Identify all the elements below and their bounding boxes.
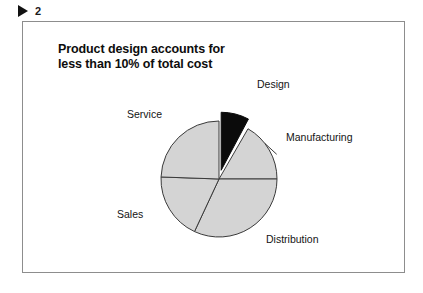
pie-label-design: Design — [257, 78, 290, 90]
slide-number: 2 — [35, 6, 41, 17]
slide-marker: 2 — [18, 4, 41, 18]
pie-label-sales: Sales — [117, 208, 143, 220]
pie-label-manufacturing: Manufacturing — [286, 131, 353, 143]
pie-label-service: Service — [127, 108, 162, 120]
pie-chart: DesignManufacturingDistributionSalesServ… — [23, 22, 406, 274]
pie-slices-group — [161, 112, 277, 237]
pie-slice-service — [161, 121, 219, 179]
play-triangle-icon — [18, 5, 28, 17]
pie-label-distribution: Distribution — [266, 233, 319, 245]
figure-frame: Product design accounts for less than 10… — [22, 21, 405, 273]
